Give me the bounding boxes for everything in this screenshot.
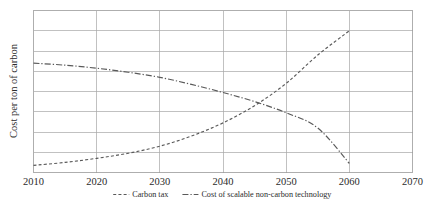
legend-label: Carbon tax	[132, 190, 168, 199]
y-axis-title: Cost per ton of carbon	[8, 43, 19, 138]
legend-item[interactable]: Cost of scalable non-carbon technology	[182, 190, 332, 199]
chart-container: Cost per ton of carbon 20102020203020402…	[0, 0, 429, 212]
x-axis-tick-label: 2030	[149, 176, 170, 187]
x-axis-tick-label: 2020	[86, 176, 107, 187]
legend-label: Cost of scalable non-carbon technology	[201, 190, 332, 199]
chart-legend: Carbon taxCost of scalable non-carbon te…	[113, 190, 332, 199]
x-axis-tick-label: 2010	[23, 176, 44, 187]
x-axis-tick-label: 2070	[402, 176, 423, 187]
x-axis-tick-label: 2040	[213, 176, 234, 187]
x-axis-tick-label: 2050	[276, 176, 297, 187]
x-axis-tick-label: 2060	[339, 176, 360, 187]
line-chart: Cost per ton of carbon 20102020203020402…	[0, 0, 429, 212]
